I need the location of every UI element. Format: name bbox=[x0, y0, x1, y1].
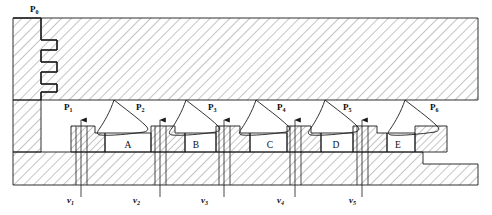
cross-section-svg: P0 P1 P2 P3 P4 P5 P6 A B C D E v1 v2 v3 … bbox=[0, 0, 492, 215]
chamber-B-cavity bbox=[185, 133, 216, 152]
stator-upper-body bbox=[13, 18, 478, 100]
chamber-label-C: C bbox=[267, 140, 273, 150]
label-v2: v2 bbox=[133, 195, 140, 206]
top-stator-block bbox=[13, 18, 478, 100]
label-v1: v1 bbox=[67, 195, 74, 206]
label-P2: P2 bbox=[136, 102, 145, 113]
chamber-E-cavity bbox=[387, 133, 415, 152]
label-P6: P6 bbox=[430, 102, 439, 113]
pillar-2 bbox=[151, 126, 185, 152]
pillar-end-right bbox=[415, 126, 447, 152]
vane-4 bbox=[308, 100, 358, 135]
vane-profiles bbox=[97, 100, 438, 135]
label-v5: v5 bbox=[349, 195, 356, 206]
label-P4: P4 bbox=[277, 102, 286, 113]
rotor-base-body bbox=[13, 152, 478, 185]
label-v4: v4 bbox=[277, 195, 284, 206]
pillar-3 bbox=[216, 126, 250, 152]
chamber-label-E: E bbox=[395, 140, 401, 150]
chamber-label-B: B bbox=[193, 140, 199, 150]
label-P3: P3 bbox=[208, 102, 217, 113]
label-P1: P1 bbox=[64, 102, 73, 113]
label-P0: P0 bbox=[30, 4, 39, 15]
label-v3: v3 bbox=[201, 195, 208, 206]
left-wall-body bbox=[13, 100, 41, 152]
chamber-label-A: A bbox=[125, 140, 132, 150]
label-P5: P5 bbox=[343, 102, 352, 113]
pillar-4 bbox=[287, 126, 321, 152]
chamber-label-D: D bbox=[333, 140, 340, 150]
diagram-canvas: P0 P1 P2 P3 P4 P5 P6 A B C D E v1 v2 v3 … bbox=[0, 0, 492, 215]
rotor-base-block bbox=[13, 152, 478, 185]
left-outer-wall bbox=[13, 100, 41, 152]
